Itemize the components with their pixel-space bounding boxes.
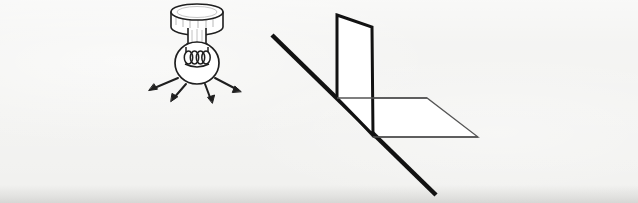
ray-upper-left: [149, 78, 178, 91]
artwork-layer: [0, 0, 638, 203]
geometry-group: [272, 15, 478, 195]
lamp-group: [149, 4, 241, 103]
ray-upper-right: [215, 78, 241, 92]
ray-lower-left: [171, 84, 186, 102]
vertical-panel: [337, 15, 373, 135]
figure-svg: [0, 0, 638, 203]
ray-lower-right: [205, 84, 215, 103]
figure-canvas: Light source and illuminated surfaces di…: [0, 0, 638, 203]
